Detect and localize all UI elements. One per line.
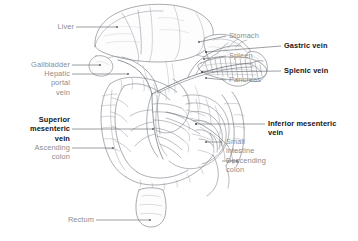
label-hepatic-portal-vein: Hepatic portal vein xyxy=(6,69,70,97)
rectum-organ xyxy=(136,188,166,227)
label-gallbladder: Gallbladder xyxy=(6,60,70,69)
label-pancreas: Pancreas xyxy=(229,75,289,84)
label-stomach: Stomach xyxy=(229,31,289,40)
label-spleen: Spleen xyxy=(229,51,289,60)
label-gastric-vein: Gastric vein xyxy=(284,41,358,50)
label-small-intestine: Small intestine xyxy=(226,137,286,156)
label-superior-mesenteric-vein: Superior mesenteric vein xyxy=(2,115,70,143)
label-ascending-colon: Ascending colon xyxy=(6,143,70,162)
label-liver: Liver xyxy=(26,22,74,31)
label-splenic-vein: Splenic vein xyxy=(284,66,358,75)
gallbladder-organ xyxy=(89,56,122,77)
figure-canvas: Liver Gallbladder Hepatic portal vein Su… xyxy=(0,0,358,241)
label-inferior-mesenteric-vein: Inferior mesenteric vein xyxy=(268,119,358,138)
label-rectum: Rectum xyxy=(46,215,94,224)
label-descending-colon: Descending colon xyxy=(226,156,288,175)
background-vessels xyxy=(143,62,200,109)
small-intestine-organ xyxy=(169,95,229,169)
